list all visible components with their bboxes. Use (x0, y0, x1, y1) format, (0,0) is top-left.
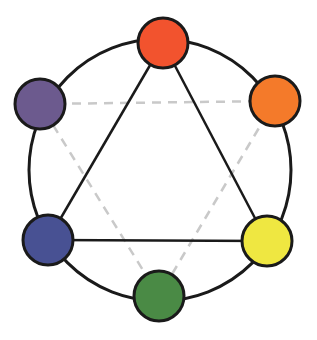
dashed-edge-green-purple (40, 104, 159, 296)
color-wheel-diagram (0, 0, 317, 340)
secondary-triangle-dashed (40, 101, 275, 296)
color-node-purple (15, 79, 65, 129)
primary-triangle-solid (48, 43, 267, 241)
color-node-yellow (242, 216, 292, 266)
solid-edge-red-yellow (163, 43, 267, 241)
dashed-edge-purple-orange (40, 101, 275, 104)
dashed-edge-orange-green (159, 101, 275, 296)
color-node-green (134, 271, 184, 321)
color-node-red (138, 18, 188, 68)
color-node-blue (23, 215, 73, 265)
color-node-orange (250, 76, 300, 126)
color-nodes (15, 18, 300, 321)
solid-edge-yellow-blue (48, 240, 267, 241)
